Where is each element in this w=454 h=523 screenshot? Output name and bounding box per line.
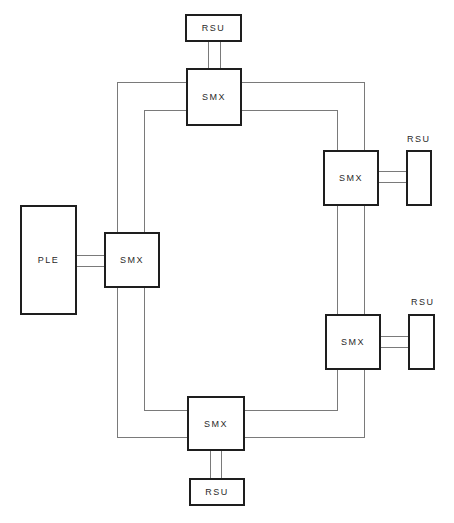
ple: PLE [20,205,77,315]
smx-top: SMX [186,68,242,126]
rsu-bottom-label: RSU [205,487,229,497]
smx-right-lower: SMX [325,314,381,370]
rsu-right-lower-label: RSU [411,297,435,307]
rsu-right-lower [408,314,435,370]
smx-left: SMX [104,232,160,288]
rsu-top: RSU [185,14,242,42]
smx-right-upper-label: SMX [339,173,363,183]
smx-bottom: SMX [187,396,245,451]
inner-ring [145,111,338,411]
rsu-top-label: RSU [202,23,226,33]
smx-top-label: SMX [202,92,226,102]
ple-label: PLE [38,255,60,265]
smx-bottom-label: SMX [204,419,228,429]
smx-right-lower-label: SMX [341,337,365,347]
rsu-right-upper [406,150,432,206]
rsu-right-upper-label: RSU [407,134,431,144]
smx-right-upper: SMX [323,150,379,206]
rsu-bottom: RSU [189,478,245,506]
ring-network-diagram: RSU SMX SMX RSU PLE SMX SMX RSU SMX RSU [0,0,454,523]
smx-left-label: SMX [120,255,144,265]
